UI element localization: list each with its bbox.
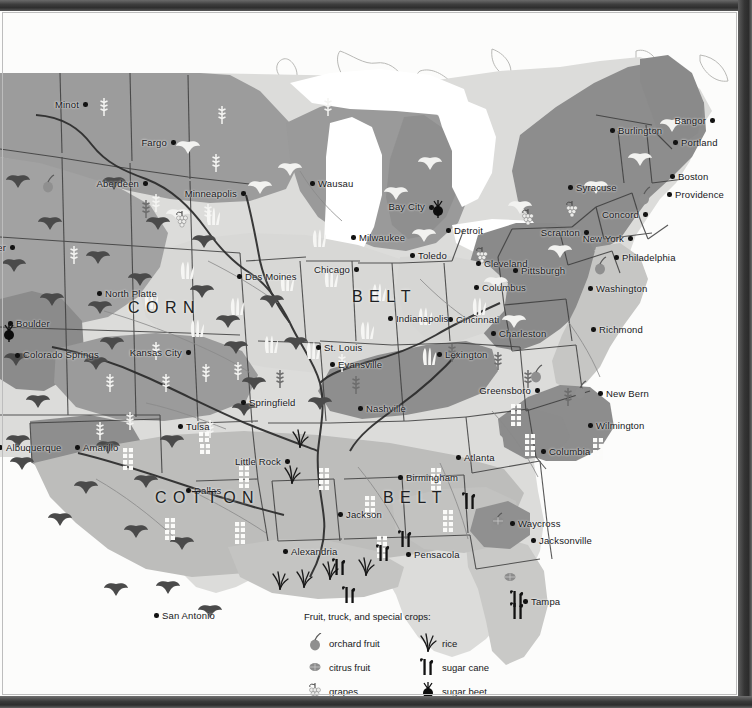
frame-inner-line [2,12,737,695]
frame-edge-right [738,0,752,708]
frame-edge-top [0,0,752,11]
map-page: MinotFargoAberdeenMinneapolisWausauBay C… [0,0,752,708]
frame-edge-bottom [0,696,752,708]
